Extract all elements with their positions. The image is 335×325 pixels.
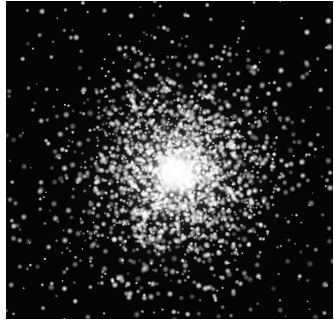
star-field xyxy=(6,1,333,319)
star-cluster-photo xyxy=(6,1,333,319)
